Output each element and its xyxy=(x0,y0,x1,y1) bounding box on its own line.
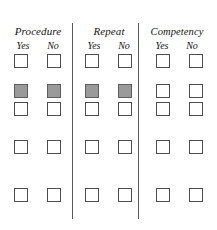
subheader-repeat-yes: Yes xyxy=(81,39,107,52)
checkbox-row xyxy=(0,140,217,154)
column-group-competency: Competency Yes No xyxy=(145,25,209,52)
checkbox-competency-yes-row1[interactable] xyxy=(156,54,170,68)
checkbox-procedure-no-row2[interactable] xyxy=(47,84,61,98)
checkbox-repeat-no-row2[interactable] xyxy=(118,84,132,98)
checkbox-repeat-yes-row1[interactable] xyxy=(85,54,99,68)
checkbox-repeat-no-row4[interactable] xyxy=(118,140,132,154)
checkbox-competency-yes-row5[interactable] xyxy=(156,188,170,202)
checkbox-competency-no-row4[interactable] xyxy=(189,140,203,154)
checkbox-repeat-yes-row5[interactable] xyxy=(85,188,99,202)
subheader-row-repeat: Yes No xyxy=(77,39,141,52)
checkbox-procedure-no-row4[interactable] xyxy=(47,140,61,154)
checkbox-procedure-yes-row1[interactable] xyxy=(14,54,28,68)
checkbox-competency-yes-row2[interactable] xyxy=(156,84,170,98)
column-group-repeat: Repeat Yes No xyxy=(77,25,141,52)
column-title-competency: Competency xyxy=(145,25,209,38)
checkbox-procedure-no-row5[interactable] xyxy=(47,188,61,202)
checkbox-procedure-no-row3[interactable] xyxy=(47,102,61,116)
column-title-procedure: Procedure xyxy=(6,25,70,38)
checkbox-repeat-no-row5[interactable] xyxy=(118,188,132,202)
subheader-procedure-no: No xyxy=(40,39,66,52)
checkbox-competency-no-row3[interactable] xyxy=(189,102,203,116)
subheader-competency-yes: Yes xyxy=(149,39,175,52)
checkbox-repeat-yes-row2[interactable] xyxy=(85,84,99,98)
checkbox-row xyxy=(0,188,217,202)
checkbox-row xyxy=(0,54,217,68)
checkbox-competency-yes-row4[interactable] xyxy=(156,140,170,154)
checkbox-procedure-no-row1[interactable] xyxy=(47,54,61,68)
checkbox-competency-no-row2[interactable] xyxy=(189,84,203,98)
subheader-procedure-yes: Yes xyxy=(10,39,36,52)
checkbox-procedure-yes-row4[interactable] xyxy=(14,140,28,154)
column-title-repeat: Repeat xyxy=(77,25,141,38)
subheader-repeat-no: No xyxy=(111,39,137,52)
checkbox-repeat-yes-row4[interactable] xyxy=(85,140,99,154)
checkbox-procedure-yes-row5[interactable] xyxy=(14,188,28,202)
checkbox-procedure-yes-row3[interactable] xyxy=(14,102,28,116)
subheader-competency-no: No xyxy=(179,39,205,52)
checkbox-procedure-yes-row2[interactable] xyxy=(14,84,28,98)
checkbox-grid xyxy=(0,54,217,224)
subheader-row-procedure: Yes No xyxy=(6,39,70,52)
subheader-row-competency: Yes No xyxy=(145,39,209,52)
checkbox-repeat-no-row3[interactable] xyxy=(118,102,132,116)
checkbox-competency-no-row5[interactable] xyxy=(189,188,203,202)
column-group-procedure: Procedure Yes No xyxy=(6,25,70,52)
checkbox-repeat-yes-row3[interactable] xyxy=(85,102,99,116)
checkbox-repeat-no-row1[interactable] xyxy=(118,54,132,68)
checkbox-row xyxy=(0,102,217,116)
checkbox-competency-no-row1[interactable] xyxy=(189,54,203,68)
checkbox-competency-yes-row3[interactable] xyxy=(156,102,170,116)
checklist-form: Procedure Yes No Repeat Yes No Competenc… xyxy=(0,0,217,230)
checkbox-row xyxy=(0,84,217,98)
